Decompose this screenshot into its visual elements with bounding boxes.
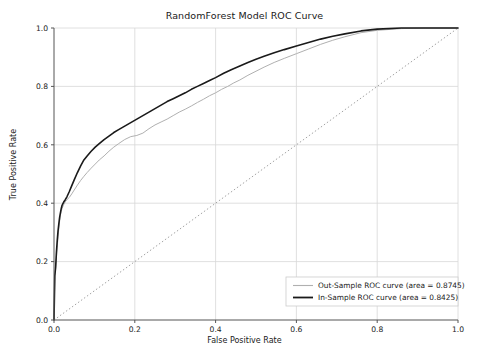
- x-axis-label: False Positive Rate: [0, 336, 489, 345]
- x-tick-label: 0.2: [129, 325, 141, 334]
- x-tick-label: 0.6: [290, 325, 302, 334]
- plot-canvas: 0.00.20.40.60.81.0 0.00.20.40.60.81.0 Ou…: [0, 0, 489, 357]
- roc-chart-figure: RandomForest Model ROC Curve 0.00.20.40.…: [0, 0, 489, 357]
- legend-label-out-sample: Out-Sample ROC curve (area = 0.8745): [318, 281, 465, 290]
- y-tick-labels: 0.00.20.40.60.81.0: [36, 24, 48, 325]
- y-axis-label: True Positive Rate: [9, 105, 18, 225]
- y-tick-label: 1.0: [36, 24, 48, 33]
- x-tick-label: 1.0: [452, 325, 464, 334]
- x-tick-label: 0.4: [210, 325, 222, 334]
- x-tick-label: 0.8: [371, 325, 383, 334]
- x-tick-label: 0.0: [48, 325, 60, 334]
- y-tick-label: 0.8: [36, 82, 48, 91]
- x-tick-labels: 0.00.20.40.60.81.0: [48, 325, 464, 334]
- legend: Out-Sample ROC curve (area = 0.8745) In-…: [286, 277, 465, 306]
- y-tick-label: 0.0: [36, 316, 48, 325]
- legend-label-in-sample: In-Sample ROC curve (area = 0.8425): [318, 293, 458, 302]
- y-tick-label: 0.2: [36, 257, 48, 266]
- y-tick-label: 0.4: [36, 199, 48, 208]
- y-tick-label: 0.6: [36, 141, 48, 150]
